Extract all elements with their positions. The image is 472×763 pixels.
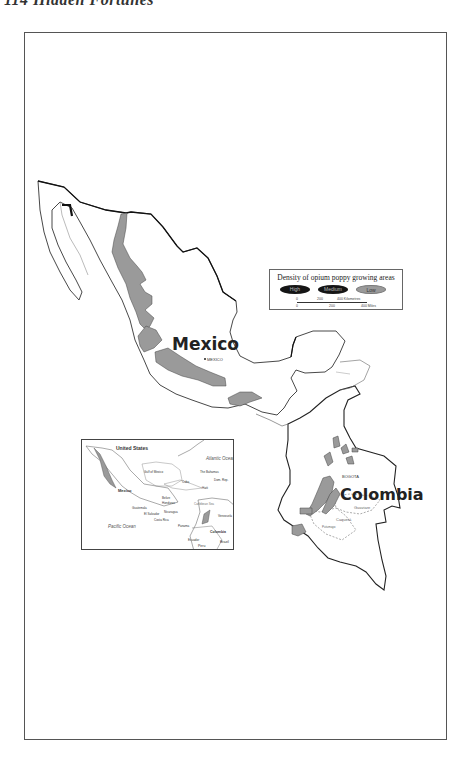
- scale-km-400: 400 Kilometres: [337, 297, 360, 301]
- legend-low: Low: [356, 285, 386, 294]
- legend: Density of opium poppy growing areas Hig…: [269, 269, 403, 310]
- scale-mi-0: 0: [296, 304, 298, 308]
- label-colombia: Colombia: [340, 485, 424, 504]
- inset-label-honduras: Honduras: [162, 501, 175, 505]
- inset-label-mexico: Mexico: [118, 488, 132, 493]
- inset-map: United States Atlantic Ocean Gulf of Mex…: [81, 439, 234, 550]
- legend-title: Density of opium poppy growing areas: [270, 273, 402, 282]
- inset-label-colombia: Colombia: [210, 530, 226, 534]
- legend-medium: Medium: [318, 285, 348, 294]
- label-putumayo: Putumayo: [322, 525, 336, 529]
- inset-label-venezuela: Venezuela: [218, 514, 232, 518]
- inset-label-peru: Peru: [198, 544, 205, 548]
- inset-label-panama: Panama: [178, 524, 189, 528]
- inset-label-guatemala: Guatemala: [132, 506, 147, 510]
- inset-label-caribbean: Caribbean Sea: [194, 502, 214, 506]
- inset-label-nicaragua: Nicaragua: [164, 510, 178, 514]
- inset-label-ecuador: Ecuador: [188, 538, 199, 542]
- inset-label-brazil: Brazil: [220, 540, 229, 544]
- inset-label-pacific: Pacific Ocean: [108, 524, 136, 529]
- label-mexico-city: MEXICO: [207, 357, 223, 362]
- label-caqueta: Caquetá: [336, 517, 351, 522]
- inset-label-costarica: Costa Rica: [154, 518, 169, 522]
- inset-label-cuba: Cuba: [182, 480, 189, 484]
- scale-bar: 0 200 400 Kilometres 0 200 400 Miles: [297, 298, 367, 308]
- label-guaviare: Guaviare: [354, 505, 370, 510]
- inset-label-elsalvador: El Salvador: [144, 512, 159, 516]
- main-map: [0, 0, 472, 763]
- legend-high: High: [280, 285, 310, 294]
- label-bogota: BOGOTA: [342, 474, 359, 479]
- inset-label-gulf: Gulf of Mexico: [144, 470, 163, 474]
- capital-dot-mexico: [204, 358, 206, 360]
- inset-label-domrep: Dom. Rep.: [214, 478, 228, 482]
- inset-label-bahamas: The Bahamas: [200, 470, 219, 474]
- inset-label-belize: Belize: [162, 496, 170, 500]
- inset-label-haiti: Haiti: [202, 486, 208, 490]
- scale-mi-200: 200: [329, 304, 335, 308]
- scale-km-200: 200: [317, 297, 323, 301]
- inset-label-atlantic: Atlantic Ocean: [206, 456, 234, 461]
- label-mexico: Mexico: [172, 334, 239, 354]
- scale-mi-400: 400 Miles: [361, 304, 376, 308]
- scale-km-0: 0: [296, 297, 298, 301]
- inset-label-us: United States: [116, 445, 148, 451]
